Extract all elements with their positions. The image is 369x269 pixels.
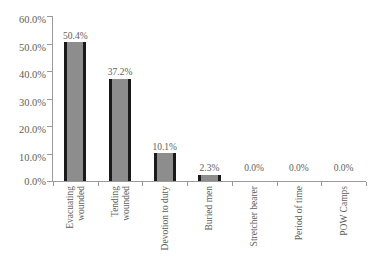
x-category-label-line2: wounded (120, 186, 131, 221)
x-category-label-line1: Stretcher bearer (249, 186, 259, 246)
bar[interactable] (154, 153, 176, 181)
x-category-label-line1: Evacuating (65, 186, 75, 229)
x-category-label: Tending wounded (109, 186, 131, 269)
chart-title (0, 0, 369, 2)
bar-group: 0.0% (243, 16, 265, 181)
x-category-label-line1: Tending (110, 186, 120, 217)
x-category-label: Evacuating wounded (64, 186, 86, 269)
x-category-label-line1: Devotion to duty (159, 186, 169, 250)
y-tick-label: 10.0% (2, 152, 46, 163)
x-category-label-line1: Period of time (294, 186, 304, 240)
x-category-label: Stretcher bearer (243, 186, 265, 269)
y-tick-label: 30.0% (2, 97, 46, 108)
bar-value-label: 0.0% (244, 163, 264, 173)
x-category-label-line2: wounded (75, 186, 86, 229)
bar-group: 0.0% (332, 16, 354, 181)
x-axis-line (48, 181, 366, 182)
bar-group: 50.4% (64, 16, 86, 181)
x-tick-mark (366, 182, 367, 186)
bar-value-label: 10.1% (152, 142, 177, 152)
y-tick-label: 40.0% (2, 69, 46, 80)
bar-group: 10.1% (154, 16, 176, 181)
x-category-label: Buried men (198, 186, 220, 269)
bar-value-label: 2.3% (200, 163, 220, 173)
y-tick-label: 50.0% (2, 42, 46, 53)
x-category-label-line1: Buried men (204, 186, 214, 231)
x-category-label: POW Camps (332, 186, 354, 269)
bar-value-label: 37.2% (108, 67, 133, 77)
x-category-label: Devotion to duty (154, 186, 176, 269)
bar-chart: 60.0% 50.0% 40.0% 30.0% 20.0% 10.0% 0.0%… (0, 0, 369, 269)
bar-group: 2.3% (198, 16, 220, 181)
bar[interactable] (198, 175, 220, 181)
x-category-label-line1: POW Camps (338, 186, 348, 236)
bar[interactable] (64, 42, 86, 181)
bar-group: 0.0% (288, 16, 310, 181)
bar-value-label: 50.4% (63, 31, 88, 41)
bar[interactable] (109, 79, 131, 181)
x-category-label: Period of time (288, 186, 310, 269)
bar-group: 37.2% (109, 16, 131, 181)
y-tick-label: 0.0% (2, 176, 46, 187)
y-axis: 60.0% 50.0% 40.0% 30.0% 20.0% 10.0% 0.0% (0, 0, 46, 269)
bar-value-label: 0.0% (334, 163, 354, 173)
y-tick-label: 20.0% (2, 124, 46, 135)
bar-value-label: 0.0% (289, 163, 309, 173)
plot-area: 50.4% 37.2% 10.1% 2.3% 0.0% 0.0% 0.0% (53, 16, 366, 181)
x-axis-labels: Evacuating wounded Tending wounded Devot… (53, 186, 366, 269)
y-tick-label: 60.0% (2, 14, 46, 25)
